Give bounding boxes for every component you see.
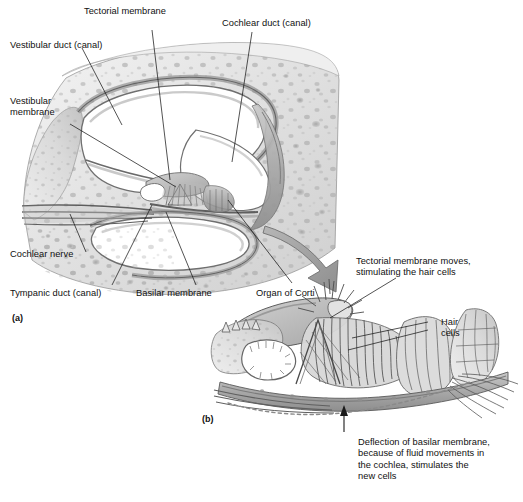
label-tympanic-duct: Tympanic duct (canal) (10, 288, 101, 299)
figure-canvas: Tectorial membrane Cochlear duct (canal)… (0, 0, 523, 502)
panel-label-a: (a) (12, 313, 23, 323)
label-vestibular-membrane: Vestibular membrane (10, 96, 55, 119)
label-tectorial-membrane-note: Tectorial membrane moves, stimulating th… (356, 256, 471, 279)
panel-b-artwork (211, 278, 518, 432)
cochlea-illustration (0, 0, 523, 502)
label-basilar-membrane: Basilar membrane (136, 288, 212, 299)
label-vestibular-duct: Vestibular duct (canal) (10, 40, 102, 51)
label-deflection-note: Deflection of basilar membrane, because … (358, 437, 490, 483)
panel-label-b: (b) (202, 414, 214, 424)
label-organ-of-corti: Organ of Corti (256, 288, 315, 299)
label-cochlear-duct: Cochlear duct (canal) (222, 18, 311, 29)
label-hair-cells: Hair cells (441, 317, 460, 340)
label-tectorial-membrane: Tectorial membrane (84, 6, 166, 17)
label-cochlear-nerve: Cochlear nerve (10, 249, 73, 260)
